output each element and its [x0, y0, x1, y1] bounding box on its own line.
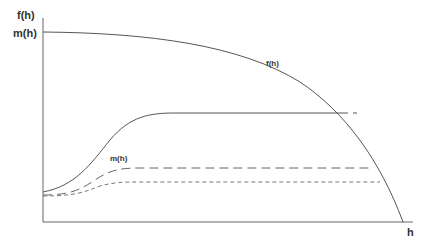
y-axis-label-f: f(h) [17, 9, 35, 21]
curve-label-f: f(h) [266, 59, 279, 68]
curve-label-m: m(h) [110, 154, 128, 163]
curve-m-short-dash [43, 182, 380, 196]
curve-f [43, 32, 403, 222]
diagram-canvas: f(h) m(h) h f(h) m(h) [0, 0, 429, 241]
x-axis-label-h: h [407, 226, 414, 238]
curve-solid-sigmoid [43, 113, 340, 192]
y-axis-label-m: m(h) [13, 27, 37, 39]
